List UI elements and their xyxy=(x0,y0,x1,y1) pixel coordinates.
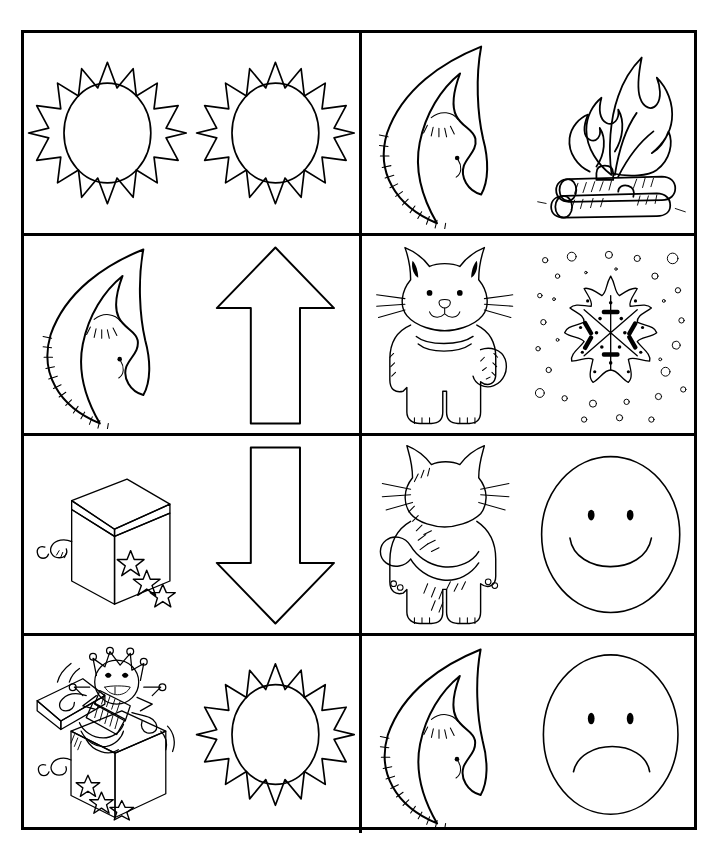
arrow-down-icon xyxy=(195,440,356,629)
picture-cell-6[interactable] xyxy=(359,433,694,633)
arrow-up-icon xyxy=(195,240,356,429)
picture-cell-1[interactable] xyxy=(24,33,359,233)
picture-cell-8[interactable] xyxy=(359,633,694,833)
picture-cell-3[interactable] xyxy=(24,233,359,433)
sun-icon xyxy=(195,37,356,229)
picture-cell-7[interactable] xyxy=(24,633,359,833)
sad-face-icon xyxy=(531,640,690,829)
moon-icon xyxy=(365,640,524,829)
sun-icon xyxy=(195,640,356,829)
moon-icon xyxy=(365,37,524,229)
moon-icon xyxy=(27,240,188,429)
worksheet-page xyxy=(0,0,717,855)
picture-card-grid xyxy=(21,30,697,830)
snowflake-icon xyxy=(531,240,690,429)
open-box-icon xyxy=(27,640,188,829)
cat-back-icon xyxy=(365,440,524,629)
closed-box-icon xyxy=(27,440,188,629)
picture-cell-5[interactable] xyxy=(24,433,359,633)
happy-face-icon xyxy=(531,440,690,629)
sun-icon xyxy=(27,37,188,229)
campfire-icon xyxy=(531,37,690,229)
cat-front-icon xyxy=(365,240,524,429)
picture-cell-4[interactable] xyxy=(359,233,694,433)
picture-cell-2[interactable] xyxy=(359,33,694,233)
